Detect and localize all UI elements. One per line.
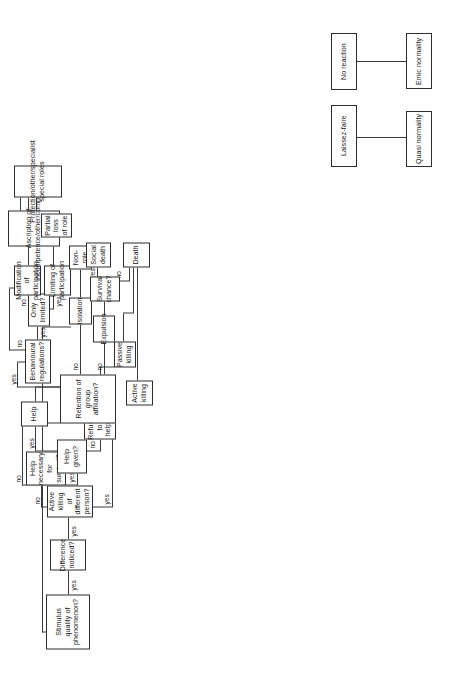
node-label: No reaction [340, 43, 349, 80]
node-label: Quasi normality [415, 114, 424, 164]
edge-noreaction-emic-link [357, 61, 406, 62]
node-quasi-normality-box[interactable]: Quasi normality [406, 111, 432, 167]
node-label: Emic normality [415, 37, 424, 84]
node-emic-normality-box[interactable]: Emic normality [406, 33, 432, 89]
node-label: Laissez-faire [340, 116, 349, 157]
node-laissez-faire-box[interactable]: Laissez-faire [331, 105, 357, 167]
edge-laissez-quasi-link [357, 137, 406, 138]
node-no-reaction-box[interactable]: No reaction [331, 33, 357, 90]
